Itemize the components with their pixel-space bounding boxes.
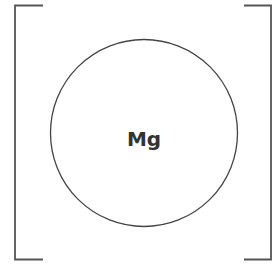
right-bracket xyxy=(244,6,271,260)
lewis-diagram: Mg xyxy=(0,0,272,270)
element-symbol: Mg xyxy=(127,127,161,151)
left-bracket xyxy=(15,6,43,260)
